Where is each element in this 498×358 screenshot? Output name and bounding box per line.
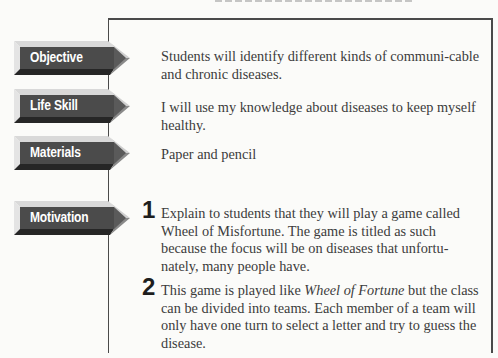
step-2-text: This game is played like Wheel of Fortun… [161, 282, 481, 352]
materials-text: Paper and pencil [161, 146, 481, 164]
label-life-skill: Life Skill [14, 89, 130, 123]
step-1-text: Explain to students that they will play … [161, 205, 481, 275]
label-materials: Materials [14, 136, 130, 170]
clipped-heading [215, 0, 415, 4]
life-skill-text: I will use my knowledge about diseases t… [161, 99, 481, 134]
label-objective: Objective [14, 41, 130, 75]
game-title-italic: Wheel of Fortune [304, 282, 404, 298]
label-text: Materials [30, 144, 81, 160]
step-number: 1 [142, 198, 155, 222]
label-text: Life Skill [30, 97, 78, 113]
label-motivation: Motivation [14, 201, 130, 235]
label-text: Objective [30, 49, 83, 65]
step-number: 2 [142, 275, 155, 299]
objective-text: Students will identify different kinds o… [161, 48, 481, 83]
label-text: Motivation [30, 209, 88, 225]
step-2-text-a: This game is played like [161, 282, 304, 298]
